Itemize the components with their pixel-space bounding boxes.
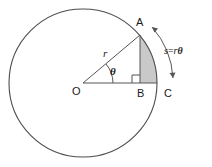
geometry-figure: O A B C r θ s=rθ [0, 0, 212, 167]
figure-canvas [0, 0, 212, 167]
label-point-a: A [136, 17, 143, 28]
arc-arrowhead-bottom-icon [170, 73, 176, 79]
label-point-b: B [137, 88, 144, 99]
arc-arrowhead-top-icon [152, 27, 158, 33]
label-point-c: C [164, 88, 172, 99]
right-angle-marker [132, 75, 140, 83]
label-angle-theta: θ [110, 66, 116, 77]
shaded-sector-region [140, 35, 157, 83]
label-arc-length-formula: s=rθ [164, 46, 183, 56]
formula-theta: θ [177, 45, 182, 56]
label-point-o: O [72, 86, 81, 97]
label-radius-r: r [103, 48, 107, 59]
